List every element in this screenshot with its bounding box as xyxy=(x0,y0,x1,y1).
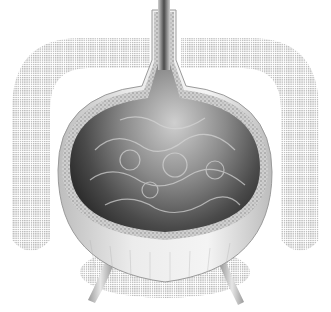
bladder-illustration xyxy=(0,0,331,312)
illustration xyxy=(0,0,331,312)
urethra-channel xyxy=(158,0,170,70)
